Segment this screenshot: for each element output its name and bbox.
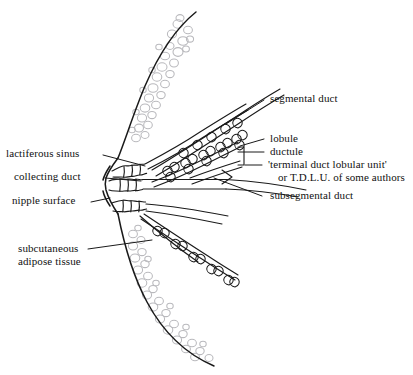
subsegmental-duct-upper-b xyxy=(192,167,242,184)
segmental-duct-b xyxy=(156,95,284,176)
breast-duct-anatomy-illustration xyxy=(0,0,413,375)
lobule-lower-3 xyxy=(189,252,205,264)
label-ductule: ductule xyxy=(270,145,303,158)
leader-lines xyxy=(88,100,264,249)
label-lactiferous-sinus: lactiferous sinus xyxy=(6,147,80,160)
collecting-duct-upper-wall-a xyxy=(146,104,246,164)
lobule-clusters xyxy=(153,118,247,287)
leader-lactiferous-sinus xyxy=(103,155,145,166)
lobule-lower-4 xyxy=(207,264,223,276)
label-tdlu-line1: 'terminal duct lobular unit' xyxy=(268,158,387,170)
duct-system xyxy=(109,89,306,280)
nipple-surface-profile xyxy=(103,158,118,214)
lower-duct-a xyxy=(146,204,228,216)
label-terminal-duct-lobular-unit: 'terminal duct lobular unit' or T.D.L.U.… xyxy=(268,158,405,184)
label-subcutaneous-adipose-tissue-line2: adipose tissue xyxy=(18,255,81,267)
lobule-upper-row2 xyxy=(179,118,242,158)
label-subcutaneous-adipose-tissue-line1: subcutaneous xyxy=(18,242,78,254)
leader-subcutaneous-adipose xyxy=(88,240,152,249)
label-tdlu-line2: or T.D.L.U. of some authors xyxy=(268,171,405,184)
label-lobule: lobule xyxy=(270,132,298,145)
lactiferous-sinus-upper xyxy=(112,164,147,178)
label-subcutaneous-adipose-tissue: subcutaneous adipose tissue xyxy=(18,242,81,268)
label-subsegmental-duct: subsegmental duct xyxy=(270,189,353,202)
label-nipple-surface: nipple surface xyxy=(12,194,75,207)
label-collecting-duct: collecting duct xyxy=(14,170,81,183)
lower-ductule-a xyxy=(144,214,238,275)
segmental-duct-a xyxy=(152,89,280,170)
label-segmental-duct: segmental duct xyxy=(270,92,338,105)
diagram-canvas: lactiferous sinus collecting duct nipple… xyxy=(0,0,413,375)
lower-ductule-b xyxy=(141,219,235,280)
lobule-lower-5 xyxy=(224,275,239,287)
subcutaneous-adipose-tissue-texture xyxy=(128,15,213,362)
lactiferous-sinus-lower xyxy=(112,200,147,212)
